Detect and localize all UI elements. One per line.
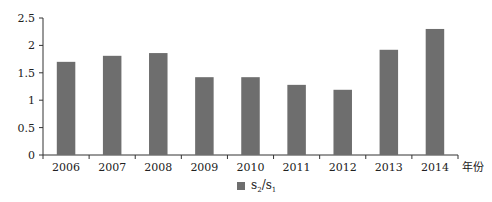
x-tick-label: 2010	[237, 161, 265, 174]
x-tick-label: 2008	[144, 161, 172, 174]
x-tick-label: 2014	[421, 161, 449, 174]
x-tick-label: 2012	[329, 161, 357, 174]
y-tick-label: 2.5	[18, 12, 36, 25]
x-axis: 200620072008200920102011201220132014	[43, 155, 458, 174]
bar	[333, 90, 352, 155]
legend: s2/s1	[237, 178, 276, 194]
bar	[103, 56, 122, 155]
x-tick-label: 2011	[283, 161, 311, 174]
x-axis-title: 年份	[462, 160, 484, 174]
bar	[380, 50, 399, 155]
legend-label: s2/s1	[251, 178, 276, 194]
bars	[57, 29, 444, 155]
y-tick-label: 2	[28, 39, 35, 52]
x-tick-label: 2009	[190, 161, 218, 174]
y-tick-label: 0.5	[18, 122, 36, 135]
y-tick-label: 1.5	[18, 67, 36, 80]
x-tick-label: 2006	[52, 161, 80, 174]
bar	[57, 62, 76, 155]
bar-chart: 00.511.522.5 200620072008200920102011201…	[0, 0, 492, 202]
y-tick-label: 1	[28, 94, 35, 107]
x-tick-label: 2007	[98, 161, 126, 174]
x-tick-label: 2013	[375, 161, 403, 174]
bar	[241, 77, 260, 155]
legend-swatch	[237, 182, 245, 190]
bar	[426, 29, 445, 155]
bar	[149, 53, 168, 155]
y-tick-label: 0	[28, 149, 35, 162]
y-axis: 00.511.522.5	[18, 12, 44, 162]
bar	[195, 77, 214, 155]
bar	[287, 85, 306, 155]
